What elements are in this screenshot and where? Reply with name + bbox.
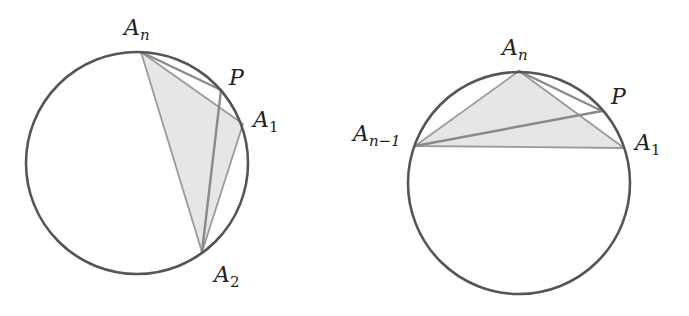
right-figure: AnPA1An−1: [351, 35, 660, 294]
label-an: An: [122, 15, 150, 44]
inscribed-polygon-diagram: AnPA1A2 AnPA1An−1: [0, 0, 689, 316]
label-an: An: [500, 35, 528, 64]
label-an-1: An−1: [351, 121, 401, 150]
label-p: P: [228, 65, 245, 90]
label-a1: A1: [633, 130, 660, 159]
label-a2: A2: [212, 262, 239, 291]
left-figure: AnPA1A2: [26, 15, 278, 291]
shaded-triangle: [141, 52, 243, 252]
label-a1: A1: [251, 107, 278, 136]
shaded-triangle: [415, 71, 624, 148]
label-p: P: [610, 84, 627, 109]
